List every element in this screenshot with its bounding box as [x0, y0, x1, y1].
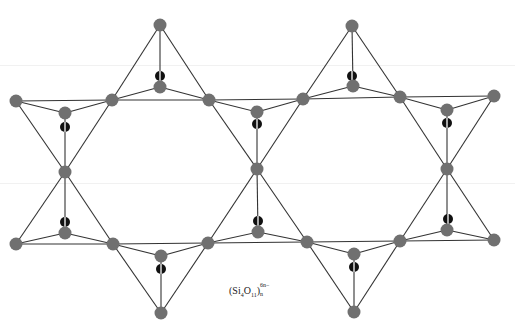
oxygen-atom-icon: [107, 238, 120, 251]
bond-line: [16, 100, 112, 101]
oxygen-atom-icon: [154, 19, 167, 32]
bond-line: [65, 172, 113, 244]
bond-line: [208, 232, 258, 243]
formula-open: (Si: [229, 285, 241, 296]
oxygen-atom-icon: [203, 94, 216, 107]
bond-line: [447, 96, 494, 169]
oxygen-atom-icon: [301, 236, 314, 249]
bond-line: [400, 169, 447, 241]
formula-charge: 6n−n: [260, 285, 274, 295]
oxygen-atom-icon: [394, 91, 407, 104]
oxygen-atom-icon: [348, 306, 361, 319]
oxygen-atom-icon: [251, 106, 264, 119]
bond-line: [303, 97, 400, 99]
bond-line: [113, 243, 208, 244]
oxygen-atom-icon: [441, 104, 454, 117]
bond-line: [208, 169, 257, 243]
oxygen-atom-icon: [202, 237, 215, 250]
oxygen-atoms: [10, 19, 501, 320]
formula-caption: (Si4O11)6n−n: [229, 285, 274, 298]
oxygen-atom-icon: [59, 227, 72, 240]
bond-line: [307, 241, 400, 242]
oxygen-atom-icon: [10, 238, 23, 251]
bond-line: [16, 172, 65, 244]
bond-line: [447, 230, 494, 240]
oxygen-atom-icon: [441, 224, 454, 237]
oxygen-atom-icon: [348, 248, 361, 261]
bond-line: [65, 233, 113, 244]
silicate-chain-diagram: [0, 0, 515, 332]
bond-line: [400, 96, 494, 97]
oxygen-atom-icon: [106, 94, 119, 107]
formula-n-subscript: n: [260, 291, 263, 297]
oxygen-atom-icon: [155, 307, 168, 320]
oxygen-atom-icon: [347, 80, 360, 93]
oxygen-atom-icon: [252, 226, 265, 239]
oxygen-atom-icon: [155, 250, 168, 263]
oxygen-atom-icon: [154, 81, 167, 94]
oxygen-atom-icon: [251, 163, 264, 176]
bond-line: [208, 242, 307, 243]
bond-line: [258, 232, 307, 242]
oxygen-atom-icon: [59, 107, 72, 120]
oxygen-atom-icon: [488, 90, 501, 103]
oxygen-atom-icon: [441, 163, 454, 176]
formula-charge-superscript: 6n−: [260, 282, 269, 288]
oxygen-atom-icon: [346, 20, 359, 33]
formula-oxygen: O: [244, 285, 251, 296]
oxygen-atom-icon: [394, 235, 407, 248]
oxygen-atom-icon: [10, 95, 23, 108]
bond-line: [400, 230, 447, 241]
bond-line: [447, 169, 494, 240]
oxygen-atom-icon: [297, 93, 310, 106]
oxygen-atom-icon: [59, 166, 72, 179]
bond-line: [400, 240, 494, 241]
bond-line: [16, 233, 65, 244]
bond-line: [353, 86, 400, 97]
bond-line: [209, 99, 303, 100]
bond-line: [257, 169, 307, 242]
oxygen-atom-icon: [488, 234, 501, 247]
